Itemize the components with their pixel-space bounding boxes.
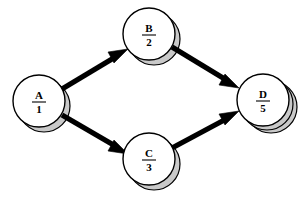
node-c-letter: C	[145, 147, 153, 159]
node-c-circle[interactable]	[123, 133, 175, 185]
node-d-number: 5	[260, 102, 266, 114]
edge-b-to-d-line	[172, 47, 228, 81]
node-b-circle[interactable]	[123, 8, 175, 60]
node-diagram: A 1 B 2 C 3 D 5	[0, 0, 298, 197]
edge-c-to-d-line	[172, 118, 228, 148]
edge-b-to-d	[172, 47, 239, 88]
edge-a-to-c	[62, 115, 128, 154]
node-a-letter: A	[35, 89, 43, 101]
node-b-number: 2	[146, 36, 152, 48]
node-a-circle[interactable]	[13, 75, 65, 127]
node-d[interactable]: D 5	[237, 74, 289, 126]
node-b[interactable]: B 2	[123, 8, 175, 60]
edge-a-to-b-line	[62, 56, 117, 89]
diagram-canvas: A 1 B 2 C 3 D 5	[0, 0, 298, 197]
node-c[interactable]: C 3	[123, 133, 175, 185]
edge-a-to-c-line	[62, 115, 117, 147]
edge-a-to-b	[62, 49, 128, 89]
node-layer: A 1 B 2 C 3 D 5	[13, 8, 289, 185]
edge-c-to-d	[172, 111, 239, 148]
node-a[interactable]: A 1	[13, 75, 65, 127]
node-b-letter: B	[145, 22, 153, 34]
node-d-letter: D	[259, 88, 267, 100]
node-a-number: 1	[36, 103, 42, 115]
node-d-circle[interactable]	[237, 74, 289, 126]
node-c-number: 3	[146, 161, 152, 173]
